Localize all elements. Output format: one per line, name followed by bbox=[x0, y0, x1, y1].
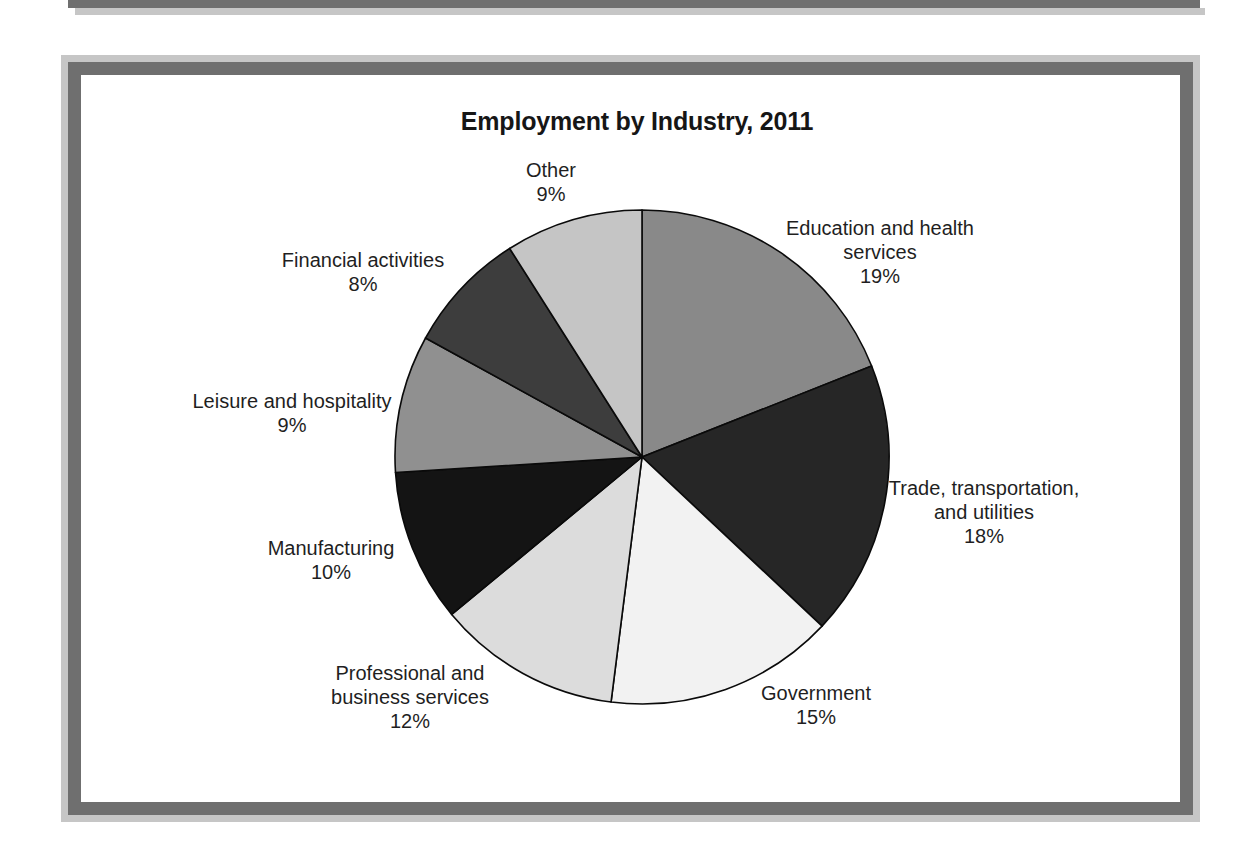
slice-label-line: services bbox=[786, 240, 974, 264]
slice-label-line: 9% bbox=[526, 182, 576, 206]
slice-label-other: Other9% bbox=[526, 158, 576, 206]
slice-label-line: 8% bbox=[282, 272, 444, 296]
scanned-page: Employment by Industry, 2011 Education a… bbox=[0, 0, 1259, 859]
slice-label-education-and-health-services: Education and healthservices19% bbox=[786, 216, 974, 288]
slice-label-financial-activities: Financial activities8% bbox=[282, 248, 444, 296]
slice-label-line: Government bbox=[761, 681, 871, 705]
slice-label-line: Leisure and hospitality bbox=[192, 389, 391, 413]
slice-label-line: and utilities bbox=[889, 500, 1079, 524]
slice-label-line: 18% bbox=[889, 524, 1079, 548]
slice-label-leisure-and-hospitality: Leisure and hospitality9% bbox=[192, 389, 391, 437]
slice-label-professional-and-business-services: Professional andbusiness services12% bbox=[331, 661, 489, 733]
slice-label-line: Manufacturing bbox=[268, 536, 395, 560]
slice-label-line: 12% bbox=[331, 709, 489, 733]
slice-label-line: 9% bbox=[192, 413, 391, 437]
slice-label-line: Financial activities bbox=[282, 248, 444, 272]
pie-chart bbox=[0, 0, 1259, 859]
slice-label-trade-transportation-and-utilities: Trade, transportation,and utilities18% bbox=[889, 476, 1079, 548]
slice-label-line: 19% bbox=[786, 264, 974, 288]
slice-label-government: Government15% bbox=[761, 681, 871, 729]
slice-label-line: Other bbox=[526, 158, 576, 182]
slice-label-line: 15% bbox=[761, 705, 871, 729]
slice-label-manufacturing: Manufacturing10% bbox=[268, 536, 395, 584]
slice-label-line: Professional and bbox=[331, 661, 489, 685]
slice-label-line: Trade, transportation, bbox=[889, 476, 1079, 500]
slice-label-line: 10% bbox=[268, 560, 395, 584]
slice-label-line: Education and health bbox=[786, 216, 974, 240]
slice-label-line: business services bbox=[331, 685, 489, 709]
